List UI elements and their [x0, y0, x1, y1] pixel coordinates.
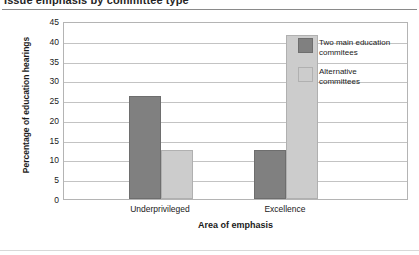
- y-axis-tick-label: 30: [33, 77, 59, 86]
- chart-legend: Two main educationcommitees Alternativec…: [298, 38, 410, 96]
- y-axis-tick-label: 0: [33, 196, 59, 205]
- gridline: [64, 181, 407, 182]
- x-axis-tick-label: Excellence: [225, 204, 345, 214]
- y-axis-tick-label: 35: [33, 58, 59, 67]
- gridline: [64, 142, 407, 143]
- y-axis-tick-label: 20: [33, 117, 59, 126]
- legend-item: Alternativecommittees: [298, 67, 410, 87]
- y-axis-tick-label: 40: [33, 38, 59, 47]
- legend-item: Two main educationcommitees: [298, 38, 410, 58]
- y-axis-tick-label: 15: [33, 137, 59, 146]
- bar: [129, 96, 161, 199]
- y-axis-tick-labels: 051015202530354045: [29, 22, 59, 200]
- x-axis-tick-label: Underprivileged: [100, 204, 220, 214]
- gridline: [64, 122, 407, 123]
- y-axis-tick-label: 5: [33, 176, 59, 185]
- gridline: [64, 161, 407, 162]
- legend-label: Two main educationcommitees: [319, 38, 390, 58]
- legend-label-line2: committees: [319, 77, 360, 86]
- title-divider: [2, 9, 417, 10]
- legend-label-line1: Two main education: [319, 38, 390, 47]
- chart-canvas: Percentage of education hearings 0510152…: [0, 12, 419, 244]
- x-axis-title: Area of emphasis: [63, 220, 408, 230]
- bar: [161, 150, 193, 199]
- gridline: [64, 102, 407, 103]
- legend-swatch-icon: [298, 38, 313, 53]
- y-axis-tick-label: 10: [33, 156, 59, 165]
- legend-label-line2: commitees: [319, 48, 358, 57]
- chart-title: Issue emphasis by committee type: [4, 0, 189, 6]
- bottom-divider: [0, 250, 419, 251]
- bar: [254, 150, 286, 199]
- legend-label-line1: Alternative: [319, 67, 357, 76]
- legend-swatch-icon: [298, 67, 313, 82]
- y-axis-tick-label: 25: [33, 97, 59, 106]
- legend-label: Alternativecommittees: [319, 67, 360, 87]
- y-axis-tick-label: 45: [33, 18, 59, 27]
